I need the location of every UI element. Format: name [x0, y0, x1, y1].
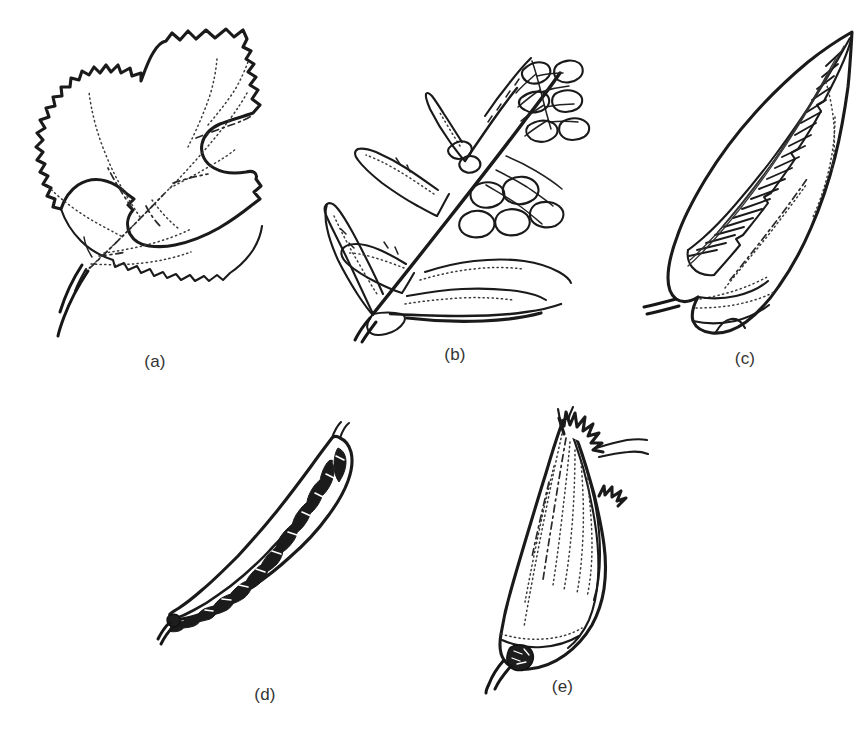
- panel-b-illustration: [310, 18, 600, 338]
- panel-label-e: (e): [465, 678, 660, 695]
- panel-e: (e): [465, 412, 660, 690]
- panel-label-c: (c): [630, 350, 860, 367]
- figure-canvas: (a): [0, 0, 866, 740]
- panel-c-illustration: [630, 22, 860, 337]
- panel-label-b: (b): [310, 346, 600, 363]
- panel-d-illustration: [160, 420, 370, 690]
- panel-label-d: (d): [160, 686, 370, 703]
- panel-d: (d): [160, 420, 370, 690]
- panel-a-illustration: [20, 25, 290, 335]
- panel-e-illustration: [465, 412, 660, 690]
- panel-b: (b): [310, 18, 600, 338]
- panel-label-a: (a): [20, 353, 290, 370]
- panel-a: (a): [20, 25, 290, 335]
- panel-c: (c): [630, 22, 860, 337]
